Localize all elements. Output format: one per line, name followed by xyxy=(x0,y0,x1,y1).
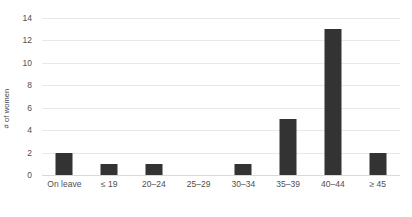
y-axis-tick-label: 12 xyxy=(23,36,32,45)
bar-slot xyxy=(311,18,356,175)
y-axis-tick-label: 10 xyxy=(23,59,32,68)
x-axis-tick-label: 20–24 xyxy=(132,180,177,189)
x-axis-tick-label: 35–39 xyxy=(266,180,311,189)
plot-area xyxy=(42,18,400,175)
bar-slot xyxy=(176,18,221,175)
y-axis-tick-labels: 02468101214 xyxy=(0,18,36,175)
bar-slot xyxy=(87,18,132,175)
x-axis-tick-label: 30–34 xyxy=(221,180,266,189)
bar[interactable] xyxy=(324,29,341,175)
bar-chart: # of women 02468101214 On leave≤ 1920–24… xyxy=(0,0,412,217)
bar-slot xyxy=(221,18,266,175)
bar[interactable] xyxy=(56,153,73,175)
x-axis-tick-label: ≥ 45 xyxy=(355,180,400,189)
bar[interactable] xyxy=(235,164,252,175)
bar-slot xyxy=(42,18,87,175)
y-axis-tick-label: 6 xyxy=(27,103,32,112)
bar-slot xyxy=(355,18,400,175)
y-axis-tick-label: 0 xyxy=(27,171,32,180)
bar[interactable] xyxy=(145,164,162,175)
gridline xyxy=(42,175,400,176)
bar-slot xyxy=(266,18,311,175)
x-axis-tick-label: 40–44 xyxy=(311,180,356,189)
y-axis-tick-label: 14 xyxy=(23,14,32,23)
x-axis-tick-label: ≤ 19 xyxy=(87,180,132,189)
x-axis-tick-label: On leave xyxy=(42,180,87,189)
y-axis-tick-label: 2 xyxy=(27,148,32,157)
x-axis-category-labels: On leave≤ 1920–2425–2930–3435–3940–44≥ 4… xyxy=(42,180,400,200)
x-axis-tick-label: 25–29 xyxy=(176,180,221,189)
bar[interactable] xyxy=(101,164,118,175)
y-axis-tick-label: 8 xyxy=(27,81,32,90)
bar-slot xyxy=(132,18,177,175)
bar[interactable] xyxy=(369,153,386,175)
bar[interactable] xyxy=(280,119,297,175)
y-axis-tick-label: 4 xyxy=(27,126,32,135)
